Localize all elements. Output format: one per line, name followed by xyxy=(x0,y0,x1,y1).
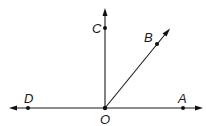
label-o: O xyxy=(100,112,110,126)
point-a xyxy=(181,106,185,110)
point-o xyxy=(103,106,107,110)
point-d xyxy=(26,106,30,110)
geometry-diagram: D A O C B xyxy=(0,0,206,126)
label-a: A xyxy=(177,91,187,106)
arrowhead-left-icon xyxy=(9,106,17,111)
label-b: B xyxy=(144,30,153,45)
label-c: C xyxy=(92,21,102,36)
point-c xyxy=(103,26,107,30)
point-b xyxy=(155,42,159,46)
arrowhead-right-icon xyxy=(195,106,203,111)
arrowhead-up-icon xyxy=(103,8,108,16)
label-d: D xyxy=(24,91,33,106)
